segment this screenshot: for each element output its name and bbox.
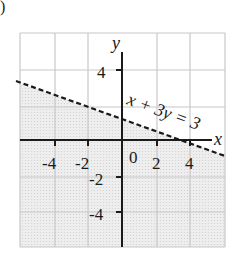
y-tick-neg4: -4 [89,205,104,224]
origin-label: 0 [129,148,138,167]
x-tick-neg4: -4 [42,154,57,173]
y-tick-neg2: -2 [89,170,103,189]
y-axis-label: y [110,33,120,53]
x-tick-2: 2 [152,154,161,173]
x-tick-4: 4 [185,154,194,173]
x-axis-label: x [213,129,222,149]
x-tick-neg2: -2 [75,154,89,173]
y-tick-4: 4 [97,63,106,82]
inequality-graph: ) y x 4 -2 -4 -4 -2 2 4 [0,0,240,261]
corner-mark: ) [0,0,5,16]
